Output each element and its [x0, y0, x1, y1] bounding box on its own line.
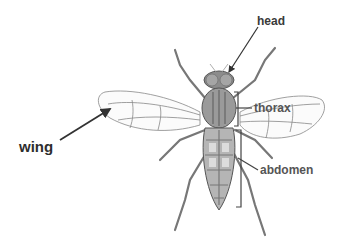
left-wing	[98, 91, 200, 130]
head	[204, 64, 234, 89]
label-wing: wing	[19, 139, 53, 154]
fly-anatomy-diagram: head thorax abdomen wing	[0, 0, 345, 250]
label-thorax: thorax	[254, 102, 291, 114]
abdomen	[203, 128, 235, 210]
label-abdomen: abdomen	[260, 164, 313, 176]
wing-pointer-arrow	[60, 109, 110, 140]
fly-illustration	[0, 0, 345, 250]
head-pointer-arrow	[229, 27, 258, 72]
label-head: head	[257, 15, 285, 27]
thorax	[202, 88, 236, 128]
